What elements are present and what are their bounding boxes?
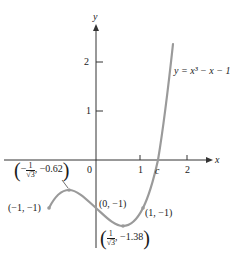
paren-open: ( <box>100 227 107 249</box>
label-local-max: (−1√3, −0.62) <box>14 160 70 180</box>
root-label: c <box>155 166 159 176</box>
paren-close: ) <box>143 227 150 249</box>
local-max-value: , −0.62 <box>35 163 63 174</box>
paren-open: ( <box>14 159 21 181</box>
paren-close: ) <box>63 159 70 181</box>
point-local-max <box>67 188 71 192</box>
x-axis-arrow-icon <box>206 157 213 163</box>
label-point-1-minus1: (1, −1) <box>145 208 172 218</box>
point-minus1-minus1 <box>47 206 51 210</box>
xtick-label-1: 1 <box>138 165 143 175</box>
label-point-minus1-minus1: (−1, −1) <box>8 203 41 213</box>
y-axis-label: y <box>93 12 97 22</box>
y-axis-arrow-icon <box>93 24 99 31</box>
equation-label: y = x³ − x − 1 <box>174 66 231 76</box>
ytick-label-1: 1 <box>86 106 91 116</box>
label-local-min: (1√3, −1.38) <box>100 228 150 248</box>
local-min-value: , −1.38 <box>115 231 143 242</box>
xtick-label-2: 2 <box>185 165 190 175</box>
x-axis-label: x <box>215 155 219 165</box>
origin-label: 0 <box>87 165 92 175</box>
ytick-label-2: 2 <box>84 57 89 67</box>
fraction-1-over-sqrt3: 1√3 <box>26 162 34 179</box>
fraction-1-over-sqrt3: 1√3 <box>107 230 115 247</box>
cubic-graph <box>0 0 233 255</box>
local-max-leader <box>62 180 68 188</box>
label-point-0-minus1: (0, −1) <box>99 199 126 209</box>
